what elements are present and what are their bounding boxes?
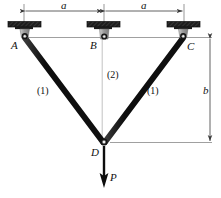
load-label-P: P [110, 172, 117, 183]
support-A [8, 22, 41, 40]
joint-label-C: C [187, 41, 194, 52]
joint-label-B: B [90, 40, 97, 51]
dimension-label-a-right: a [141, 0, 147, 11]
support-B [87, 22, 120, 40]
member-label-1-left: (1) [37, 86, 49, 96]
truss-figure: a a b A B C D (1) (2) (1) P [0, 0, 221, 198]
member-2-BD [102, 39, 104, 142]
member-label-1-right: (1) [147, 86, 159, 96]
support-C [167, 22, 200, 40]
member-1-CD [105, 38, 183, 142]
joint-D [100, 138, 107, 145]
member-label-2: (2) [107, 70, 119, 80]
joint-label-A: A [11, 40, 18, 51]
joint-label-D: D [91, 147, 99, 158]
load-arrow-P [100, 146, 109, 188]
dimension-label-a-left: a [61, 0, 67, 11]
dimension-label-b: b [203, 85, 209, 96]
truss-diagram-canvas [0, 0, 221, 198]
